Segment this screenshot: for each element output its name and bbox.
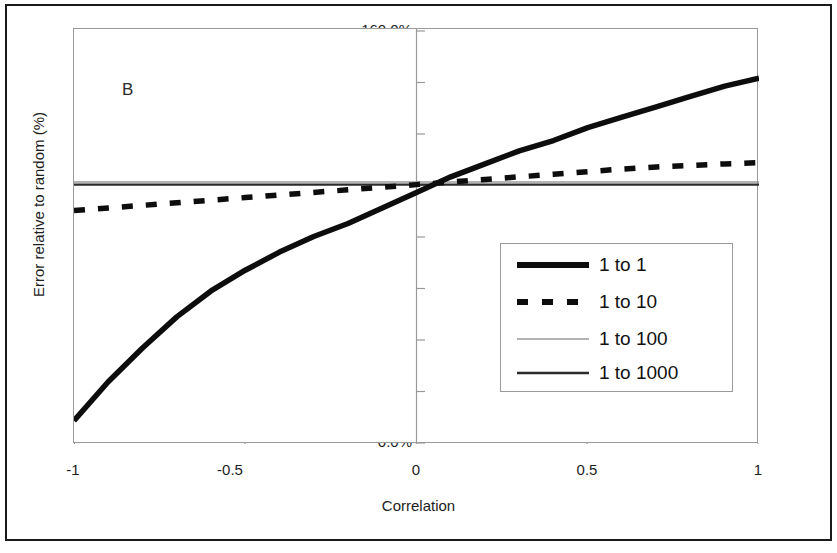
xtick-label-neg1: -1 <box>43 462 103 478</box>
legend-item-1-to-100[interactable]: 1 to 100 <box>501 320 734 357</box>
y-tick-marks <box>417 31 426 443</box>
legend-swatch-medium-solid-icon <box>515 365 591 381</box>
figure-container: 160.0% 140.0% 120.0% 100.0% 80.0% 60.0% … <box>0 0 837 553</box>
legend-swatch-thick-dashed-icon <box>515 294 591 310</box>
legend-label: 1 to 1000 <box>599 362 678 384</box>
xtick-label-neg0-5: -0.5 <box>200 462 260 478</box>
x-axis-title: Correlation <box>0 497 837 514</box>
legend-label: 1 to 10 <box>599 291 657 313</box>
legend-item-1-to-10[interactable]: 1 to 10 <box>501 283 734 320</box>
legend-swatch-thin-solid-icon <box>515 331 591 347</box>
y-axis-title: Error relative to random (%) <box>30 55 47 355</box>
legend-box: 1 to 1 1 to 10 1 to 100 1 to 1000 <box>500 243 733 392</box>
xtick-label-0-5: 0.5 <box>557 462 617 478</box>
x-tick-marks <box>75 443 759 444</box>
legend-item-1-to-1[interactable]: 1 to 1 <box>501 246 734 283</box>
legend-label: 1 to 1 <box>599 254 647 276</box>
legend-item-1-to-1000[interactable]: 1 to 1000 <box>501 354 734 391</box>
panel-label: B <box>122 80 133 100</box>
xtick-label-1: 1 <box>728 462 788 478</box>
legend-label: 1 to 100 <box>599 328 668 350</box>
xtick-label-0: 0 <box>386 462 446 478</box>
legend-swatch-thick-solid-icon <box>515 257 591 273</box>
